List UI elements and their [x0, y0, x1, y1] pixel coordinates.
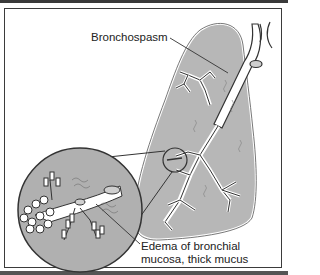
edema-label-line2: mucosa, thick mucus: [141, 253, 248, 265]
bronchospasm-label: Bronchospasm: [91, 31, 168, 43]
edema-label-line1: Edema of bronchial: [141, 240, 240, 252]
